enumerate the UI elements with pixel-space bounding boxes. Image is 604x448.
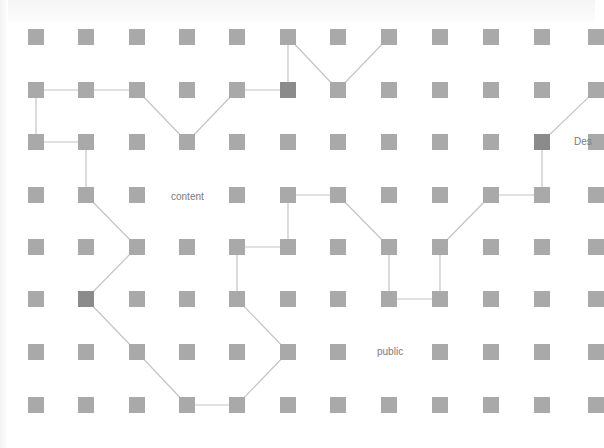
grid-node [432,134,448,150]
label-public: public [377,346,403,358]
grid-node [78,82,94,98]
grid-node [534,187,550,203]
grid-node [432,82,448,98]
grid-node [483,291,499,307]
grid-node [534,82,550,98]
grid-node [78,291,94,307]
grid-node [28,82,44,98]
grid-node [588,291,604,307]
edge-layer [36,37,595,405]
grid-node [28,397,44,413]
grid-node [534,29,550,45]
grid-node [588,82,604,98]
grid-node [179,397,195,413]
grid-node [28,29,44,45]
grid-node [280,344,296,360]
grid-node [588,344,604,360]
grid-node [483,397,499,413]
grid-node [28,344,44,360]
grid-node [28,187,44,203]
grid-node [28,239,44,255]
grid-node [78,344,94,360]
grid-node [179,344,195,360]
grid-node [330,344,346,360]
grid-node [588,397,604,413]
grid-node [28,291,44,307]
grid-node [483,82,499,98]
grid-node [28,134,44,150]
grid-node [534,134,550,150]
grid-node [229,134,245,150]
grid-node [78,187,94,203]
grid-node [129,397,145,413]
grid-node [483,134,499,150]
grid-node [432,29,448,45]
grid-node [330,82,346,98]
grid-node [381,29,397,45]
grid-node [534,291,550,307]
grid-node [588,187,604,203]
grid-node [229,187,245,203]
grid-node [129,29,145,45]
grid-node [179,29,195,45]
grid-node [483,29,499,45]
grid-node [432,239,448,255]
grid-node [129,134,145,150]
grid-node [280,187,296,203]
grid-node [330,397,346,413]
grid-node [229,291,245,307]
grid-node [330,29,346,45]
grid-node [534,344,550,360]
grid-node [229,29,245,45]
grid-node [280,82,296,98]
grid-node [483,344,499,360]
grid-node [432,397,448,413]
grid-node [129,187,145,203]
grid-node [129,344,145,360]
grid-node [229,82,245,98]
grid-node [179,134,195,150]
grid-node [179,239,195,255]
grid-node [280,134,296,150]
grid-node [229,239,245,255]
grid-node [381,239,397,255]
grid-node [381,134,397,150]
grid-node [129,239,145,255]
grid-node [129,82,145,98]
grid-node [381,397,397,413]
grid-node [432,187,448,203]
grid-node [78,397,94,413]
grid-node [483,239,499,255]
grid-node [534,397,550,413]
grid-node [432,344,448,360]
grid-node [280,29,296,45]
grid-node [483,187,499,203]
grid-node [432,291,448,307]
grid-node [179,291,195,307]
grid-node [381,291,397,307]
grid-node [229,397,245,413]
grid-node [129,291,145,307]
grid-node [78,239,94,255]
grid-node [381,82,397,98]
grid-node [179,82,195,98]
grid-node [330,187,346,203]
label-des: Des [574,136,592,148]
grid-node [78,29,94,45]
grid-node [280,291,296,307]
grid-node [330,239,346,255]
grid-node [534,239,550,255]
grid-node [588,239,604,255]
grid-node [280,397,296,413]
grid-node [229,344,245,360]
label-content: content [171,191,204,203]
grid-node [330,291,346,307]
grid-node [330,134,346,150]
grid-node [381,187,397,203]
grid-node [588,29,604,45]
grid-node [78,134,94,150]
grid-node [280,239,296,255]
